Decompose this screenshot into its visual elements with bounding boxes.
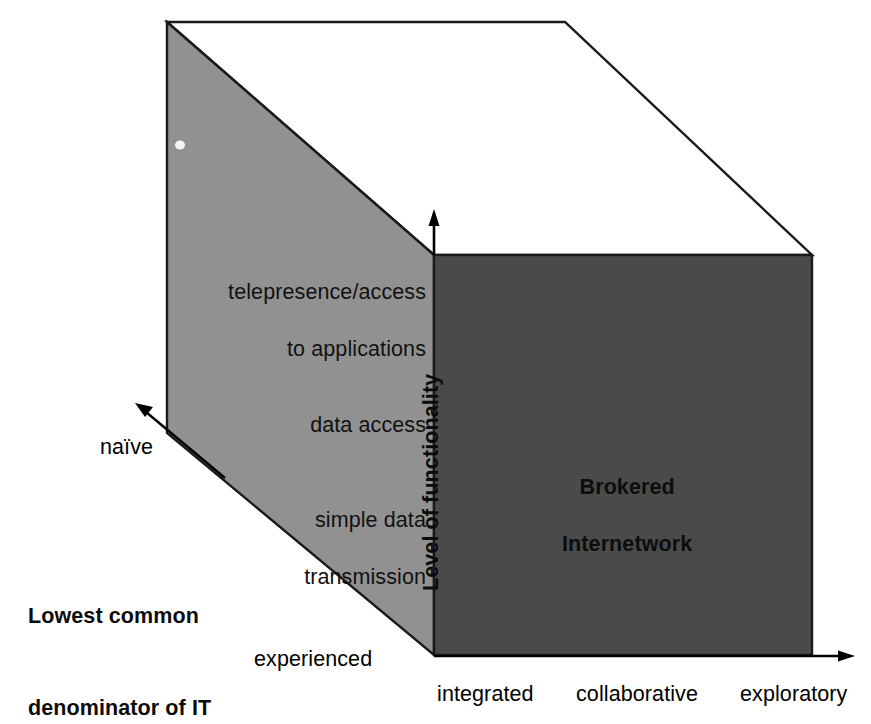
functionality-level-telepresence: telepresence/access to applications xyxy=(178,250,426,392)
depth-axis-caption-line-2: denominator of IT xyxy=(28,693,328,724)
depth-axis-label-naive: naïve xyxy=(100,434,153,462)
horizontal-axis-tick-collaborative: collaborative xyxy=(576,681,698,709)
functionality-level-telepresence-line1: telepresence/access xyxy=(228,280,426,304)
diagram-canvas: telepresence/access to applications data… xyxy=(0,0,871,724)
paper-speck xyxy=(175,141,185,150)
functionality-level-data-access: data access xyxy=(178,383,426,468)
horizontal-axis-tick-integrated: integrated xyxy=(437,681,534,709)
depth-axis-caption: Lowest common denominator of IT sophisti… xyxy=(28,540,328,724)
functionality-level-simple-data-line1: simple data xyxy=(315,508,426,532)
front-face-title: Brokered Internetwork xyxy=(505,444,725,588)
functionality-level-telepresence-line2: to applications xyxy=(287,337,426,361)
front-face-title-line1: Brokered xyxy=(580,475,675,499)
horizontal-axis-tick-exploratory: exploratory xyxy=(740,681,847,709)
front-face-title-line2: Internetwork xyxy=(562,532,692,556)
depth-axis-caption-line-1: Lowest common xyxy=(28,601,328,632)
vertical-axis-title: Level of functionality xyxy=(418,271,446,591)
functionality-level-data-access-line1: data access xyxy=(310,413,426,437)
